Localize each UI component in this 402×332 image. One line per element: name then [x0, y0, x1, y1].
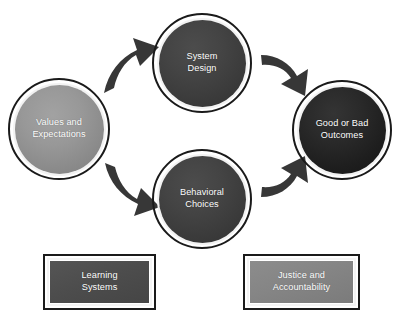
arrow-behavioral-choices-to-outcomes	[261, 156, 308, 197]
node-label: Learning Systems	[81, 270, 117, 294]
node-learning-systems[interactable]: Learning Systems	[43, 254, 156, 310]
node-label-line-2: Expectations	[32, 129, 85, 139]
node-label: Justice and Accountability	[273, 270, 330, 294]
node-label: System Design	[183, 51, 222, 74]
node-label-line-1: Learning	[81, 270, 117, 280]
node-label-line-2: Choices	[185, 199, 219, 209]
node-label-line-2: Outcomes	[321, 130, 363, 140]
node-good-or-bad-outcomes[interactable]: Good or Bad Outcomes	[292, 80, 392, 180]
node-system-design[interactable]: System Design	[152, 13, 252, 113]
node-label-line-1: Behavioral	[180, 187, 224, 197]
node-justice-and-accountability[interactable]: Justice and Accountability	[243, 254, 360, 310]
node-behavioral-choices[interactable]: Behavioral Choices	[152, 149, 252, 249]
diagram-canvas: Values and Expectations System Design Be…	[0, 0, 402, 332]
node-label-line-1: Good or Bad	[316, 118, 369, 128]
node-label-line-1: Values and	[36, 117, 82, 127]
node-label: Behavioral Choices	[176, 187, 228, 210]
node-values-and-expectations[interactable]: Values and Expectations	[8, 78, 110, 180]
node-label-line-2: Accountability	[273, 282, 330, 292]
arrow-system-design-to-outcomes	[261, 55, 308, 96]
node-label: Good or Bad Outcomes	[312, 118, 373, 141]
arrow-values-to-system-design	[104, 38, 159, 93]
node-label-line-1: System	[187, 51, 218, 61]
node-label-line-2: Systems	[82, 282, 118, 292]
node-label: Values and Expectations	[28, 117, 89, 140]
node-label-line-1: Justice and	[278, 270, 325, 280]
node-label-line-2: Design	[188, 63, 217, 73]
